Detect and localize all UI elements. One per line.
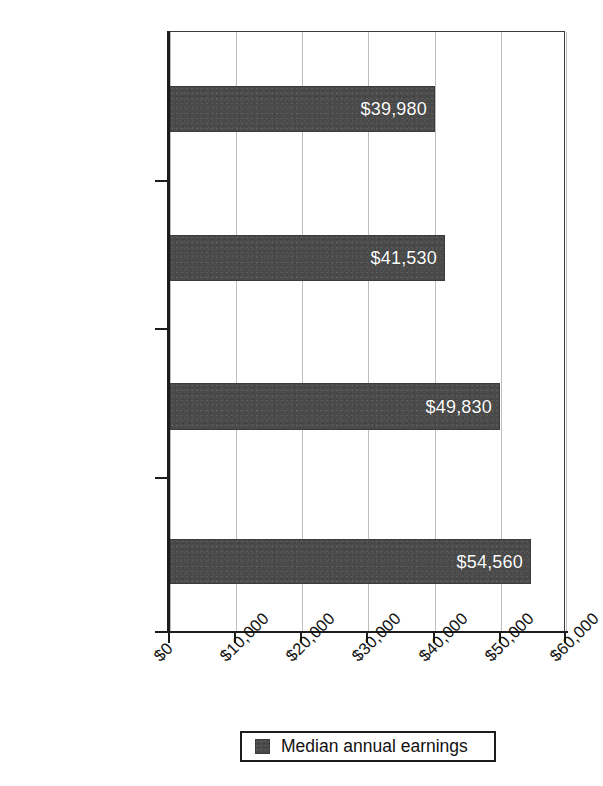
gridline-60000 bbox=[566, 32, 567, 632]
y-tick-1 bbox=[155, 180, 168, 182]
legend-label: Median annual earnings bbox=[281, 736, 468, 757]
x-tick-0 bbox=[168, 632, 170, 643]
legend-swatch-icon bbox=[255, 739, 270, 754]
x-tick-label-0: $0 bbox=[150, 639, 177, 666]
y-tick-2 bbox=[155, 328, 168, 330]
bar-value-label: $49,830 bbox=[426, 396, 492, 417]
bar-all-other: $54,560 bbox=[170, 539, 531, 584]
bar-health-care: $49,830 bbox=[170, 383, 500, 430]
bar-value-label: $41,530 bbox=[371, 248, 437, 269]
bar-mental-health: $39,980 bbox=[170, 86, 435, 132]
y-tick-3 bbox=[155, 477, 168, 479]
bar-value-label: $39,980 bbox=[361, 99, 427, 120]
chart-legend: Median annual earnings bbox=[240, 731, 496, 762]
plot-area: $39,980 $41,530 $49,830 $54,560 bbox=[168, 31, 565, 632]
y-axis-line bbox=[167, 31, 169, 633]
bar-child-family-school: $41,530 bbox=[170, 235, 445, 281]
bar-value-label: $54,560 bbox=[457, 551, 523, 572]
